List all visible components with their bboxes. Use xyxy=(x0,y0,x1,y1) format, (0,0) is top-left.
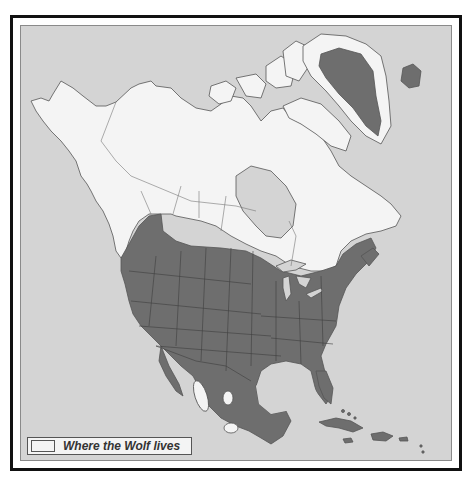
legend-label: Where the Wolf lives xyxy=(63,439,180,453)
map-frame: Where the Wolf lives xyxy=(10,15,462,471)
lesser-antilles xyxy=(420,445,422,447)
map-legend: Where the Wolf lives xyxy=(27,437,192,455)
bahamas xyxy=(354,417,356,419)
jamaica xyxy=(343,438,353,443)
cuba xyxy=(319,418,363,432)
mexico-range-patch xyxy=(224,423,238,433)
mexico-range-patch xyxy=(223,391,233,405)
map-area: Where the Wolf lives xyxy=(20,25,452,461)
puerto-rico xyxy=(399,437,408,441)
bahamas xyxy=(342,410,345,413)
north-america-map xyxy=(21,26,451,460)
lesser-antilles xyxy=(422,451,424,453)
legend-swatch-wolf-range xyxy=(31,440,55,452)
hispaniola xyxy=(371,432,393,441)
arctic-island xyxy=(236,74,266,98)
iceland xyxy=(401,64,421,88)
bahamas xyxy=(348,413,351,416)
